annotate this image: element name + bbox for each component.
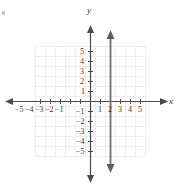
x-tick-label-3: 3 xyxy=(118,106,122,114)
y-tick-label-3: 3 xyxy=(80,68,84,76)
x-tick-label-4: 4 xyxy=(128,106,132,114)
y-tick-label-2: 2 xyxy=(80,78,84,86)
graph-plot-area xyxy=(0,0,177,194)
x-tick-label-1: 1 xyxy=(98,106,102,114)
y-tick-label--5: −5 xyxy=(76,148,85,156)
x-tick-label-2: 2 xyxy=(108,106,112,114)
series-bottom-arrowhead xyxy=(107,164,115,173)
y-axis-bottom-arrowhead xyxy=(87,175,94,183)
y-axis-label: y xyxy=(87,6,91,15)
x-tick-label--2: −2 xyxy=(45,106,54,114)
x-tick-label--1: −1 xyxy=(55,106,64,114)
series-top-arrowhead xyxy=(107,30,115,39)
y-tick-label-4: 4 xyxy=(80,58,84,66)
y-tick-label-1: 1 xyxy=(81,88,85,96)
y-tick-label--2: −2 xyxy=(76,118,85,126)
x-axis-right-arrowhead xyxy=(160,98,168,105)
x-axis-left-arrowhead xyxy=(5,98,13,105)
y-axis-top-arrowhead xyxy=(87,25,94,33)
y-axis xyxy=(87,25,94,183)
x-tick-label--5: −5 xyxy=(15,106,24,114)
x-axis xyxy=(5,98,168,105)
x-tick-label-5: 5 xyxy=(138,106,142,114)
y-tick-label--1: −1 xyxy=(76,108,85,116)
y-tick-label--3: −3 xyxy=(76,128,85,136)
coordinate-plane-figure: −5 −4 −3 −2 −1 1 2 3 4 5 5 4 3 2 1 −1 −2… xyxy=(0,0,177,194)
y-tick-label-5: 5 xyxy=(80,48,84,56)
x-tick-label--3: −3 xyxy=(35,106,44,114)
x-tick-label--4: −4 xyxy=(25,106,34,114)
x-axis-label: x xyxy=(169,97,173,106)
y-tick-label--4: −4 xyxy=(76,138,85,146)
